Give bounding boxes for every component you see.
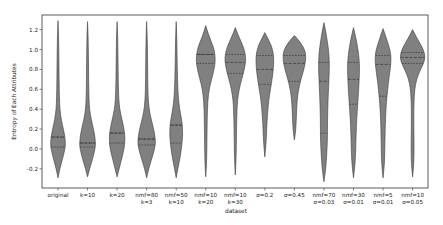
x-tick-label: nmf=10 xyxy=(401,192,424,198)
violin xyxy=(109,22,125,177)
violin xyxy=(196,26,215,177)
chart-canvas: -0.20.00.20.40.60.81.01.2 originalk=10k=… xyxy=(0,0,443,225)
x-tick-label: k=30 xyxy=(228,199,243,205)
violin-body xyxy=(256,33,274,157)
x-tick-label: nmf=50 xyxy=(165,192,188,198)
violin xyxy=(348,28,360,178)
y-tick-label: 1.0 xyxy=(29,47,38,53)
x-axis-label: dataset xyxy=(225,208,248,214)
violin-body xyxy=(225,28,246,175)
violin xyxy=(170,22,183,178)
x-tick-label: nmf=70 xyxy=(313,192,336,198)
x-axis-ticks: originalk=10k=20nmf=80k=3nmf=50k=10nmf=1… xyxy=(48,188,425,205)
y-axis-ticks: -0.20.00.20.40.60.81.01.2 xyxy=(27,27,42,172)
x-tick-label: k=20 xyxy=(198,199,213,205)
violin-body xyxy=(375,29,391,178)
x-tick-label: nmf=80 xyxy=(135,192,158,198)
violin-chart: -0.20.00.20.40.60.81.01.2 originalk=10k=… xyxy=(0,0,443,225)
violin-series-group xyxy=(51,21,425,182)
x-tick-label: nmf=10 xyxy=(194,192,217,198)
y-tick-label: 0.4 xyxy=(29,106,38,112)
violin-body xyxy=(319,23,330,182)
violin xyxy=(283,36,306,140)
violin-body xyxy=(170,22,183,178)
x-tick-label: σ=0.01 xyxy=(373,199,394,205)
y-tick-label: 1.2 xyxy=(29,27,38,33)
y-tick-label: 0.0 xyxy=(29,146,38,152)
x-tick-label: σ=0.03 xyxy=(314,199,335,205)
violin xyxy=(375,29,391,178)
violin xyxy=(51,21,66,178)
violin-body xyxy=(283,36,306,140)
violin xyxy=(138,22,155,178)
violin-body xyxy=(348,28,360,178)
x-tick-label: nmf=10 xyxy=(224,192,247,198)
violin-body xyxy=(196,26,215,177)
x-tick-label: σ=0.2 xyxy=(256,192,273,198)
x-tick-label: k=10 xyxy=(169,199,184,205)
y-tick-label: 0.2 xyxy=(29,126,38,132)
x-tick-label: nmf=5 xyxy=(373,192,393,198)
y-axis-label: Entropy of Each Attributes xyxy=(11,63,18,139)
violin-body xyxy=(109,22,125,177)
x-tick-label: k=3 xyxy=(141,199,153,205)
violin-body xyxy=(138,22,155,178)
violin xyxy=(400,30,424,177)
x-tick-label: σ=0.45 xyxy=(284,192,305,198)
y-tick-label: -0.2 xyxy=(27,166,38,172)
x-tick-label: σ=0.01 xyxy=(343,199,364,205)
violin-body xyxy=(400,30,424,177)
violin xyxy=(256,33,274,157)
x-tick-label: nmf=30 xyxy=(342,192,365,198)
violin xyxy=(319,23,330,182)
y-tick-label: 0.6 xyxy=(29,86,38,92)
x-tick-label: k=20 xyxy=(110,192,125,198)
violin-body xyxy=(80,22,96,177)
x-tick-label: k=10 xyxy=(80,192,95,198)
x-tick-label: σ=0.05 xyxy=(402,199,423,205)
violin-body xyxy=(51,21,66,178)
x-tick-label: original xyxy=(48,192,69,199)
violin xyxy=(80,22,96,177)
violin xyxy=(225,28,246,175)
y-tick-label: 0.8 xyxy=(29,66,38,72)
